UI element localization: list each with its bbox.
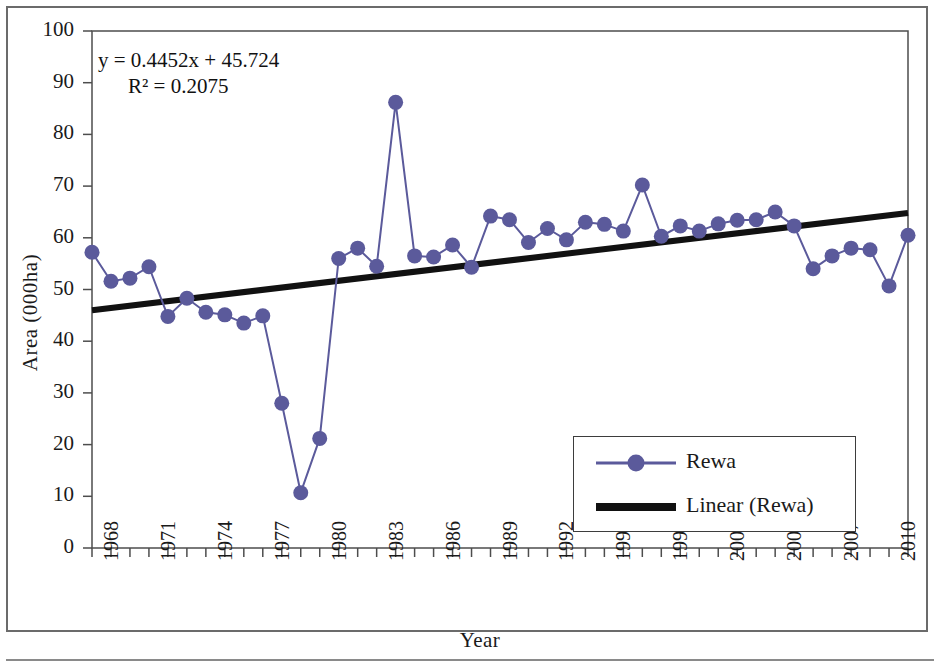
y-tick-label: 20 [20,431,74,456]
x-tick-label: 1980 [328,521,351,561]
chart-legend: Rewa Linear (Rewa) [573,436,856,532]
x-tick-label: 2010 [897,521,920,561]
legend-swatch-rewa-line-marker [592,441,680,485]
y-tick-label: 70 [20,172,74,197]
x-axis-title: Year [380,628,580,653]
x-tick-label: 1971 [157,521,180,561]
x-tick-label: 1983 [385,521,408,561]
r-squared-annotation: R² = 0.2075 [128,74,228,99]
x-tick-label: 1986 [442,521,465,561]
y-axis-ticks [83,31,92,548]
x-tick-label: 1977 [271,521,294,561]
trendline-equation-annotation: y = 0.4452x + 45.724 [98,48,279,73]
legend-item-rewa: Rewa [574,441,855,485]
chart-figure: 0102030405060708090100 19681971197419771… [0,0,940,669]
x-tick-label: 1989 [499,521,522,561]
line-chart-plot [0,0,940,669]
y-tick-label: 90 [20,69,74,94]
y-axis-title: Area (000ha) [18,223,43,403]
y-tick-label: 10 [20,482,74,507]
y-tick-label: 0 [20,534,74,559]
legend-label-rewa: Rewa [686,448,736,474]
legend-label-linear-rewa: Linear (Rewa) [686,492,814,518]
y-tick-label: 80 [20,120,74,145]
legend-swatch-linear-trendline [592,485,680,529]
y-tick-label: 100 [20,17,74,42]
x-tick-label: 1968 [100,521,123,561]
x-tick-label: 1974 [214,521,237,561]
legend-item-linear-rewa: Linear (Rewa) [574,485,855,529]
